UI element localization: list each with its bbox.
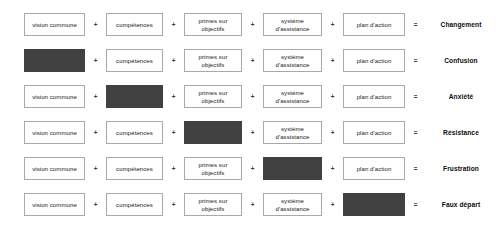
factor-label: compétences [114, 201, 155, 209]
factor-label: système d'assistance [274, 17, 312, 32]
factor-label: plan d'action [355, 93, 394, 101]
equation-row: vision commune+compétences+primes sur ob… [0, 49, 498, 73]
equals-operator: = [410, 121, 421, 144]
equation-row: vision commune+compétences+primes sur ob… [0, 121, 498, 145]
factor-box: compétences [106, 13, 163, 36]
equation-row: vision commune+compétences+primes sur ob… [0, 85, 498, 109]
factor-label: primes sur objectifs [197, 53, 230, 68]
factor-label: plan d'action [355, 21, 394, 29]
equals-operator: = [410, 49, 421, 72]
plus-operator: + [247, 13, 258, 36]
plus-operator: + [247, 157, 258, 180]
factor-box: compétences [106, 121, 163, 144]
factor-box: vision commune [24, 85, 85, 108]
equals-operator: = [410, 13, 421, 36]
factor-box: compétences [106, 49, 163, 72]
factor-box: système d'assistance [263, 85, 322, 108]
plus-operator: + [90, 85, 101, 108]
factor-box-missing: système d'assistance [263, 157, 322, 180]
factor-box-missing: vision commune [24, 49, 85, 72]
equation-row: vision commune+compétences+primes sur ob… [0, 157, 498, 181]
factor-box: compétences [106, 157, 163, 180]
change-management-matrix: vision commune+compétences+primes sur ob… [0, 0, 498, 245]
factor-box: vision commune [24, 13, 85, 36]
equation-row: vision commune+compétences+primes sur ob… [0, 193, 498, 217]
factor-label: système d'assistance [274, 53, 312, 68]
plus-operator: + [327, 13, 338, 36]
factor-label: vision commune [30, 129, 79, 137]
factor-label: primes sur objectifs [197, 161, 230, 176]
factor-box-missing: primes sur objectifs [184, 121, 242, 144]
plus-operator: + [168, 157, 179, 180]
factor-box: plan d'action [343, 121, 405, 144]
equals-operator: = [410, 193, 421, 216]
factor-box: primes sur objectifs [184, 13, 242, 36]
plus-operator: + [90, 121, 101, 144]
factor-label: vision commune [30, 93, 79, 101]
outcome-label: Frustration [424, 157, 498, 180]
factor-label: plan d'action [355, 165, 394, 173]
factor-box: primes sur objectifs [184, 49, 242, 72]
outcome-label: Changement [424, 13, 498, 36]
plus-operator: + [327, 121, 338, 144]
factor-box: système d'assistance [263, 121, 322, 144]
factor-label: système d'assistance [274, 125, 312, 140]
factor-box: système d'assistance [263, 13, 322, 36]
outcome-label: Faux départ [424, 193, 498, 216]
factor-box: plan d'action [343, 49, 405, 72]
factor-box-missing: plan d'action [343, 193, 405, 216]
factor-box: plan d'action [343, 85, 405, 108]
factor-box: primes sur objectifs [184, 157, 242, 180]
factor-label: vision commune [30, 201, 79, 209]
outcome-label: Résistance [424, 121, 498, 144]
plus-operator: + [90, 193, 101, 216]
factor-box: vision commune [24, 193, 85, 216]
outcome-label: Confusion [424, 49, 498, 72]
factor-box: vision commune [24, 157, 85, 180]
factor-label: compétences [114, 57, 155, 65]
factor-label: plan d'action [355, 129, 394, 137]
plus-operator: + [247, 193, 258, 216]
equals-operator: = [410, 85, 421, 108]
plus-operator: + [168, 85, 179, 108]
plus-operator: + [327, 193, 338, 216]
factor-label: compétences [114, 21, 155, 29]
plus-operator: + [247, 85, 258, 108]
factor-label: primes sur objectifs [197, 17, 230, 32]
equation-row: vision commune+compétences+primes sur ob… [0, 13, 498, 37]
factor-box: primes sur objectifs [184, 85, 242, 108]
plus-operator: + [327, 85, 338, 108]
factor-box: primes sur objectifs [184, 193, 242, 216]
factor-label: vision commune [30, 21, 79, 29]
plus-operator: + [90, 157, 101, 180]
factor-label: compétences [114, 129, 155, 137]
factor-label: vision commune [30, 165, 79, 173]
factor-label: système d'assistance [274, 89, 312, 104]
plus-operator: + [327, 157, 338, 180]
factor-box: compétences [106, 193, 163, 216]
plus-operator: + [90, 13, 101, 36]
plus-operator: + [168, 13, 179, 36]
factor-label: système d'assistance [274, 197, 312, 212]
plus-operator: + [327, 49, 338, 72]
factor-box: vision commune [24, 121, 85, 144]
factor-label: plan d'action [355, 57, 394, 65]
plus-operator: + [247, 49, 258, 72]
factor-box: plan d'action [343, 13, 405, 36]
factor-box: plan d'action [343, 157, 405, 180]
plus-operator: + [168, 193, 179, 216]
plus-operator: + [168, 49, 179, 72]
equals-operator: = [410, 157, 421, 180]
plus-operator: + [168, 121, 179, 144]
factor-box: système d'assistance [263, 49, 322, 72]
factor-label: primes sur objectifs [197, 89, 230, 104]
plus-operator: + [90, 49, 101, 72]
factor-label: primes sur objectifs [197, 197, 230, 212]
outcome-label: Anxiété [424, 85, 498, 108]
plus-operator: + [247, 121, 258, 144]
factor-label: compétences [114, 165, 155, 173]
factor-box-missing: compétences [106, 85, 163, 108]
factor-box: système d'assistance [263, 193, 322, 216]
